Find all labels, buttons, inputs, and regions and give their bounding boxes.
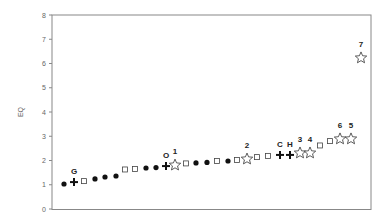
square-marker-icon xyxy=(82,179,87,184)
y-tick-label: 0 xyxy=(42,206,46,213)
y-axis: 012345678 xyxy=(42,12,52,213)
star-marker-icon xyxy=(169,159,180,170)
point-label: 5 xyxy=(349,121,354,130)
y-tick-label: 7 xyxy=(42,36,46,43)
dot-marker-icon xyxy=(61,181,66,186)
square-marker-icon xyxy=(266,153,271,158)
dot-marker-icon xyxy=(92,176,97,181)
point-labels: GO12CH34657 xyxy=(71,40,364,176)
y-tick-label: 5 xyxy=(42,84,46,91)
dot-marker-icon xyxy=(113,173,118,178)
dot-marker-icon xyxy=(204,160,209,165)
point-label: G xyxy=(71,167,77,176)
data-points xyxy=(61,52,366,187)
scatter-chart: 012345678 EQ GO12CH34657 xyxy=(0,0,387,224)
y-tick-label: 3 xyxy=(42,133,46,140)
point-label: 7 xyxy=(359,40,364,49)
dot-marker-icon xyxy=(143,165,148,170)
point-label: 3 xyxy=(298,135,303,144)
point-label: 1 xyxy=(173,147,178,156)
plus-marker-icon xyxy=(276,151,284,159)
dot-marker-icon xyxy=(102,174,107,179)
star-marker-icon xyxy=(334,133,345,144)
dot-marker-icon xyxy=(153,165,158,170)
y-tick-label: 4 xyxy=(42,109,46,116)
y-tick-label: 8 xyxy=(42,12,46,19)
y-tick-label: 1 xyxy=(42,181,46,188)
square-marker-icon xyxy=(184,161,189,166)
point-label: H xyxy=(287,140,293,149)
plus-marker-icon xyxy=(70,178,78,186)
point-label: 6 xyxy=(338,121,343,130)
square-marker-icon xyxy=(235,158,240,163)
point-label: C xyxy=(277,140,283,149)
square-marker-icon xyxy=(328,139,333,144)
star-marker-icon xyxy=(355,52,366,63)
plot-frame xyxy=(52,15,371,210)
point-label: 4 xyxy=(308,135,313,144)
plus-marker-icon xyxy=(286,151,294,159)
star-marker-icon xyxy=(294,147,305,158)
point-label: 2 xyxy=(245,141,250,150)
dot-marker-icon xyxy=(225,158,230,163)
y-axis-title: EQ xyxy=(17,106,25,117)
square-marker-icon xyxy=(133,166,138,171)
square-marker-icon xyxy=(255,155,260,160)
dot-marker-icon xyxy=(193,160,198,165)
square-marker-icon xyxy=(318,143,323,148)
square-marker-icon xyxy=(123,167,128,172)
star-marker-icon xyxy=(241,153,252,164)
star-marker-icon xyxy=(345,133,356,144)
square-marker-icon xyxy=(215,158,220,163)
point-label: O xyxy=(163,151,169,160)
star-marker-icon xyxy=(304,147,315,158)
y-tick-label: 2 xyxy=(42,157,46,164)
y-tick-label: 6 xyxy=(42,60,46,67)
